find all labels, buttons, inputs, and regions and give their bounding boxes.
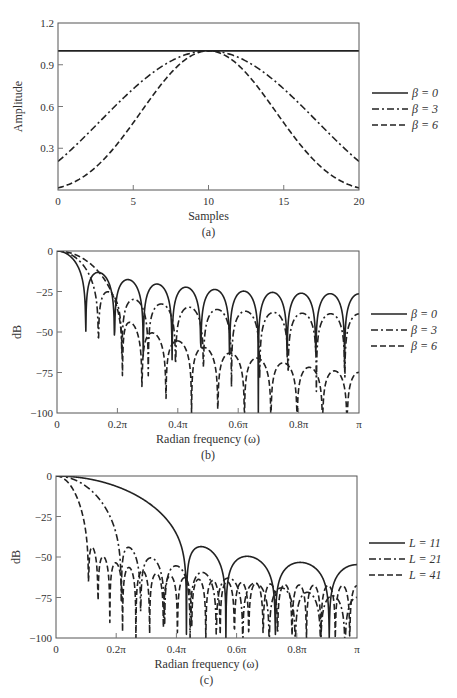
legend-label: L = 21 bbox=[408, 552, 442, 566]
x-tick-label: 0 bbox=[53, 643, 59, 655]
y-tick-label: 0.3 bbox=[40, 142, 54, 154]
x-tick-label: 0 bbox=[54, 418, 60, 430]
chart-a: 051015200.30.60.91.2 Samples Amplitude (… bbox=[11, 17, 438, 239]
y-tick-label: 0 bbox=[47, 470, 53, 482]
chart-b-caption: (b) bbox=[201, 448, 215, 462]
chart-b-curves bbox=[57, 251, 359, 413]
chart-a-caption: (a) bbox=[202, 225, 215, 239]
y-tick-label: −75 bbox=[36, 367, 54, 379]
legend-label: β = 3 bbox=[410, 323, 437, 337]
legend-label: β = 0 bbox=[411, 86, 438, 100]
chart-a-y-axis-title: Amplitude bbox=[11, 81, 25, 132]
series-line bbox=[58, 51, 359, 162]
y-tick-label: −50 bbox=[36, 326, 54, 338]
series-line bbox=[56, 476, 357, 638]
x-tick-label: 0.8π bbox=[287, 643, 307, 655]
chart-a-legend: β = 0β = 3β = 6 bbox=[372, 86, 438, 132]
y-tick-label: 0.9 bbox=[40, 59, 54, 71]
x-tick-label: 0.6π bbox=[227, 643, 247, 655]
y-tick-label: −100 bbox=[29, 632, 52, 644]
chart-c-plot-frame bbox=[56, 476, 357, 638]
series-line bbox=[58, 51, 359, 188]
series-line bbox=[56, 476, 357, 638]
legend-label: L = 11 bbox=[408, 536, 441, 550]
chart-c-ticks: 00.2π0.4π0.6π0.8ππ0−25−50−75−100 bbox=[29, 470, 360, 655]
chart-a-ticks: 051015200.30.60.91.2 bbox=[40, 17, 365, 207]
y-tick-label: 0.6 bbox=[40, 101, 54, 113]
x-tick-label: 0.4π bbox=[168, 418, 188, 430]
figure: 051015200.30.60.91.2 Samples Amplitude (… bbox=[0, 0, 457, 698]
y-tick-label: −50 bbox=[35, 551, 53, 563]
chart-a-curves bbox=[58, 51, 359, 188]
chart-b-x-axis-title: Radian frequency (ω) bbox=[156, 432, 260, 446]
chart-c-x-axis-title: Radian frequency (ω) bbox=[155, 657, 259, 671]
x-tick-label: 0.2π bbox=[108, 418, 128, 430]
x-tick-label: 0.6π bbox=[229, 418, 249, 430]
y-tick-label: 0 bbox=[48, 245, 54, 257]
legend-label: L = 41 bbox=[408, 568, 442, 582]
x-tick-label: 15 bbox=[278, 195, 290, 207]
legend-label: β = 0 bbox=[410, 307, 437, 321]
x-tick-label: 10 bbox=[203, 195, 215, 207]
chart-c-y-axis-title: dB bbox=[9, 550, 23, 564]
series-line bbox=[56, 476, 357, 638]
y-tick-label: −75 bbox=[35, 592, 53, 604]
x-tick-label: 0 bbox=[55, 195, 61, 207]
chart-b-legend: β = 0β = 3β = 6 bbox=[371, 307, 437, 353]
x-tick-label: 20 bbox=[354, 195, 366, 207]
y-tick-label: −25 bbox=[36, 286, 54, 298]
x-tick-label: 0.8π bbox=[289, 418, 309, 430]
legend-label: β = 6 bbox=[411, 118, 438, 132]
chart-a-plot-frame bbox=[58, 23, 359, 190]
chart-c-caption: (c) bbox=[200, 673, 213, 687]
chart-c-legend: L = 11L = 21L = 41 bbox=[369, 536, 442, 582]
chart-a-x-axis-title: Samples bbox=[188, 209, 229, 223]
x-tick-label: π bbox=[356, 418, 362, 430]
y-tick-label: 1.2 bbox=[40, 17, 54, 29]
x-tick-label: 0.4π bbox=[167, 643, 187, 655]
x-tick-label: 0.2π bbox=[107, 643, 127, 655]
y-tick-label: −25 bbox=[35, 511, 53, 523]
chart-c-curves bbox=[56, 476, 357, 638]
x-tick-label: π bbox=[354, 643, 360, 655]
y-tick-label: −100 bbox=[30, 407, 53, 419]
chart-b: 00.2π0.4π0.6π0.8ππ0−25−50−75−100 Radian … bbox=[10, 245, 437, 462]
chart-b-y-axis-title: dB bbox=[10, 325, 24, 339]
chart-c: 00.2π0.4π0.6π0.8ππ0−25−50−75−100 Radian … bbox=[9, 470, 442, 687]
legend-label: β = 6 bbox=[410, 339, 437, 353]
legend-label: β = 3 bbox=[411, 102, 438, 116]
x-tick-label: 5 bbox=[131, 195, 137, 207]
